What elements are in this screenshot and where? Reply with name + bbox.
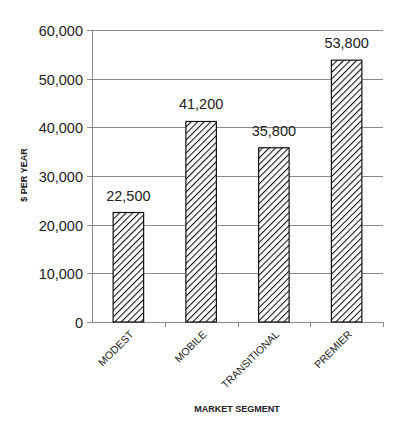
x-category-label: PREMIER <box>312 328 355 371</box>
y-tick-label: 50,000 <box>39 72 83 88</box>
y-tick-label: 20,000 <box>39 218 83 234</box>
data-labels: 22,50041,20035,80053,800 <box>106 35 369 203</box>
x-axis-title: MARKET SEGMENT <box>194 404 280 414</box>
x-axis-category-labels: MODESTMOBILETRANSITIONALPREMIER <box>96 328 355 391</box>
x-category-label: MOBILE <box>172 328 209 365</box>
y-axis-tick-labels: 010,00020,00030,00040,00050,00060,000 <box>39 23 83 331</box>
data-label: 53,800 <box>324 35 368 51</box>
y-tick-label: 40,000 <box>39 120 83 136</box>
x-category-label: TRANSITIONAL <box>219 328 282 391</box>
bar-transitional <box>259 148 290 322</box>
data-label: 22,500 <box>106 188 150 204</box>
y-tick-label: 0 <box>75 315 83 331</box>
bar-chart: 010,00020,00030,00040,00050,00060,000 22… <box>0 0 405 428</box>
y-tick-label: 30,000 <box>39 169 83 185</box>
y-axis-title: $ PER YEAR <box>19 148 29 202</box>
data-label: 35,800 <box>252 123 296 139</box>
chart-canvas: 010,00020,00030,00040,00050,00060,000 22… <box>0 0 405 428</box>
bar-premier <box>331 60 362 322</box>
data-label: 41,200 <box>179 96 223 112</box>
bar-modest <box>113 213 144 323</box>
bar-mobile <box>186 121 217 322</box>
y-tick-label: 10,000 <box>39 266 83 282</box>
x-category-label: MODEST <box>96 328 137 369</box>
y-tick-label: 60,000 <box>39 23 83 39</box>
